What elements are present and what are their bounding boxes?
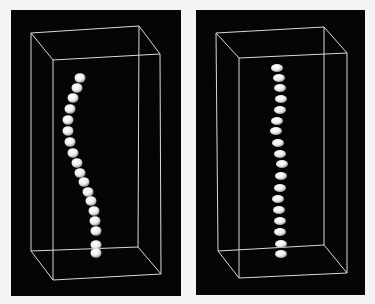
left-bead-chain [63, 73, 102, 258]
bead [275, 95, 287, 103]
bead [75, 168, 86, 178]
bead [273, 206, 285, 214]
bead [72, 158, 83, 168]
bead [275, 250, 287, 258]
box-edge [324, 245, 347, 273]
box-edge [239, 53, 347, 58]
box-edge [31, 26, 139, 33]
bead [274, 217, 286, 225]
bead [270, 127, 282, 135]
bead [90, 216, 101, 226]
bead [65, 104, 76, 114]
box-edge [216, 33, 218, 251]
box-edge [31, 247, 138, 251]
box-edge [216, 27, 324, 33]
bead [274, 228, 286, 236]
bead [274, 84, 286, 92]
bead [79, 177, 90, 187]
figure-canvas [0, 0, 375, 304]
bead [275, 240, 287, 248]
right-bead-chain [270, 64, 288, 258]
bead [83, 187, 94, 197]
bead [86, 196, 97, 206]
bead [272, 195, 284, 203]
box-edge [138, 247, 161, 274]
box-edge [160, 54, 161, 274]
bead [63, 126, 74, 136]
bead [91, 226, 102, 236]
bead [275, 172, 287, 180]
box-edge [53, 274, 161, 280]
box-edge [31, 251, 53, 280]
bead [68, 148, 79, 158]
bead [75, 73, 86, 83]
box-edge [218, 251, 239, 278]
bead [276, 160, 288, 168]
bead [271, 64, 283, 72]
bead [65, 137, 76, 147]
box-edge [138, 26, 139, 247]
bead [68, 93, 79, 103]
box-edge [218, 245, 324, 251]
bead [274, 106, 286, 114]
bead [63, 115, 74, 125]
box-edge [31, 33, 53, 60]
bead [274, 150, 286, 158]
bead [72, 83, 83, 93]
bead [272, 139, 284, 147]
box-edge [53, 54, 160, 60]
bead [274, 184, 286, 192]
box-edge [139, 26, 160, 54]
box-edge [239, 273, 347, 278]
box-edge [324, 27, 347, 53]
bead [273, 74, 285, 82]
bead [89, 206, 100, 216]
bead [271, 117, 283, 125]
bead [91, 248, 102, 258]
box-edge [216, 33, 239, 58]
